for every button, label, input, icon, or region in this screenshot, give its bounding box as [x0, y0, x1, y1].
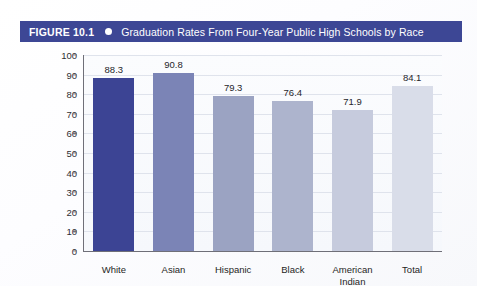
bar-black: 76.4 — [272, 101, 313, 251]
bar-asian: 90.8 — [153, 73, 194, 251]
x-axis-tick-label: Asian — [144, 264, 204, 276]
gridline — [84, 94, 442, 95]
gridline — [84, 75, 442, 76]
x-axis-tick-label: Black — [263, 264, 323, 276]
bar-value-label: 84.1 — [403, 72, 422, 83]
gridline — [84, 133, 442, 134]
y-axis-tick-mark — [73, 113, 77, 114]
y-axis-tick-mark — [73, 94, 77, 95]
y-axis-tick-mark — [73, 172, 77, 173]
bar-american-indian: 71.9 — [332, 110, 373, 251]
x-axis-tick-label: White — [84, 264, 144, 276]
x-axis-tick-label-line: Asian — [144, 264, 204, 276]
y-axis-tick-mark — [73, 74, 77, 75]
y-axis-tick-mark — [73, 211, 77, 212]
circle-bullet-icon — [105, 28, 112, 35]
bar-total: 84.1 — [392, 86, 433, 251]
y-axis-tick-mark — [73, 152, 77, 153]
x-axis-tick-label-line: Hispanic — [203, 264, 263, 276]
y-axis-tick-mark — [73, 250, 77, 251]
bar-value-label: 88.3 — [105, 64, 124, 75]
bar-hispanic: 79.3 — [213, 96, 254, 251]
x-axis-tick-label-line: Total — [382, 264, 442, 276]
gridline — [84, 231, 442, 232]
gridline — [84, 192, 442, 193]
figure-header-bar: FIGURE 10.1 Graduation Rates From Four-Y… — [20, 21, 462, 42]
y-axis-tick-mark — [73, 133, 77, 134]
bar-value-label: 76.4 — [284, 87, 303, 98]
x-axis-tick-label: Total — [382, 264, 442, 276]
plot-area: 88.3White90.8Asian79.3Hispanic76.4Black7… — [83, 55, 442, 252]
gridline — [84, 212, 442, 213]
bar-chart: 0102030405060708090100 88.3White90.8Asia… — [20, 46, 462, 278]
x-axis-tick-label: Hispanic — [203, 264, 263, 276]
gridline — [84, 173, 442, 174]
x-axis-tick-label-line: Black — [263, 264, 323, 276]
gridline — [84, 114, 442, 115]
x-axis-tick-label-line: Indian — [323, 276, 383, 286]
y-axis-tick-mark — [73, 231, 77, 232]
bar-white: 88.3 — [93, 78, 134, 251]
bar-value-label: 79.3 — [224, 82, 243, 93]
gridline — [84, 55, 442, 56]
y-axis: 0102030405060708090100 — [20, 55, 77, 251]
x-axis-tick-label-line: American — [323, 264, 383, 276]
bar-value-label: 90.8 — [164, 59, 183, 70]
x-axis-tick-label: AmericanIndian — [323, 264, 383, 286]
y-axis-tick-mark — [73, 192, 77, 193]
figure-container: FIGURE 10.1 Graduation Rates From Four-Y… — [0, 0, 477, 286]
figure-number-label: FIGURE 10.1 — [29, 26, 94, 38]
gridline — [84, 153, 442, 154]
x-axis-tick-label-line: White — [84, 264, 144, 276]
bar-value-label: 71.9 — [343, 96, 362, 107]
y-axis-tick-mark — [73, 54, 77, 55]
figure-title-text: Graduation Rates From Four-Year Public H… — [121, 26, 424, 38]
